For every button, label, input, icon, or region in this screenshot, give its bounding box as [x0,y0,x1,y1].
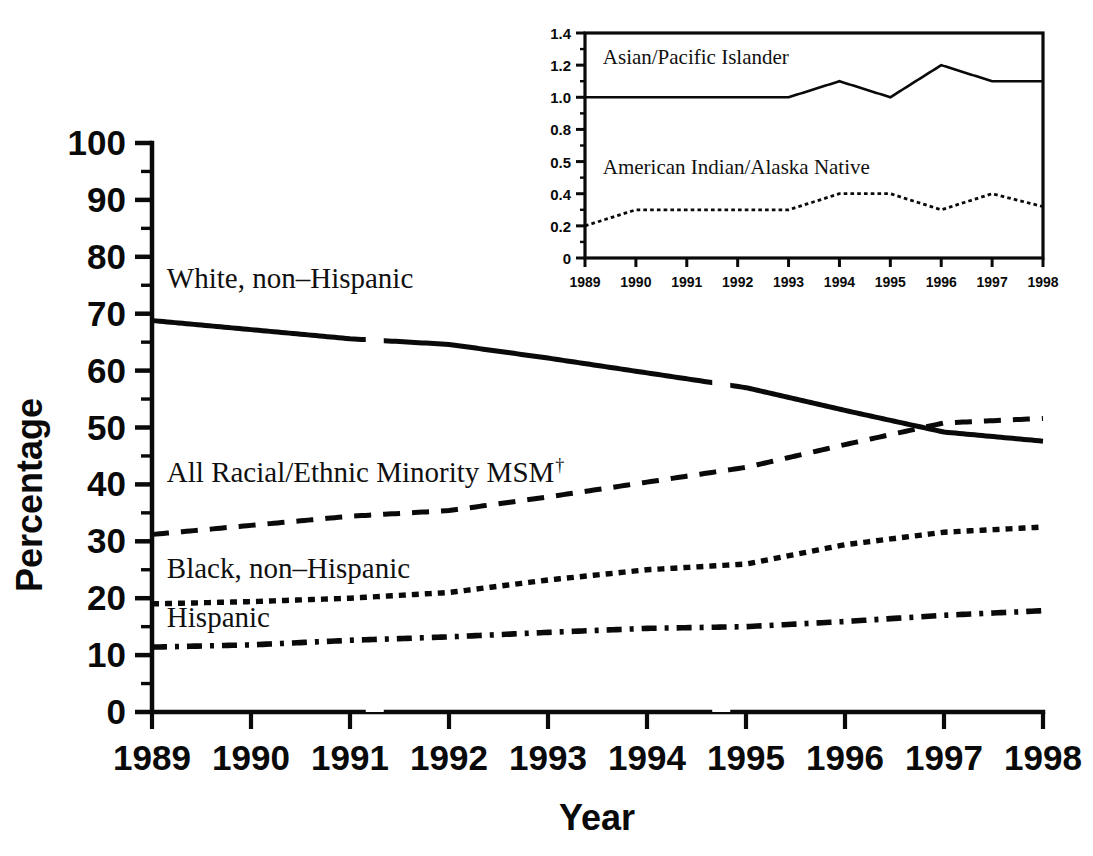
y-tick-label: 50 [87,408,126,447]
inset-y-tick-label: 0 [563,250,571,267]
y-tick-label: 60 [87,351,126,390]
x-tick-label: 1990 [212,738,290,777]
y-tick-label: 40 [87,464,126,503]
y-tick-label: 20 [87,578,126,617]
inset-y-tick-label: 1.0 [550,89,571,106]
y-tick-label: 0 [107,692,126,731]
inset-x-tick-label: 1991 [671,274,702,290]
x-axis-title: Year [559,797,635,838]
x-tick-label: 1998 [1004,738,1082,777]
inset-x-tick-label: 1989 [569,274,600,290]
chart-figure: 1009080706050403020100 19891990199119921… [0,0,1093,856]
series-label-minority-group: All Racial/Ethnic Minority MSM † [167,455,564,488]
y-tick-label: 80 [87,237,126,276]
inset-x-tick-label: 1992 [722,274,753,290]
inset-y-tick-label: 1.2 [550,57,571,74]
y-tick-label: 30 [87,521,126,560]
inset-x-tick-label: 1993 [773,274,804,290]
series-label-black: Black, non–Hispanic [167,552,410,584]
inset-x-tick-label: 1997 [977,274,1008,290]
x-tick-label: 1996 [806,738,884,777]
inset-chart: 1.41.21.00.80.50.40.20 19891990199119921… [550,25,1059,290]
inset-x-tick-label: 1994 [824,274,855,290]
x-tick-label: 1993 [509,738,587,777]
x-tick-label: 1994 [608,738,686,777]
inset-y-tick-label: 0.2 [550,218,571,235]
inset-x-tick-label: 1995 [875,274,906,290]
inset-x-tick-label: 1996 [926,274,957,290]
x-tick-label: 1989 [113,738,191,777]
y-axis-title: Percentage [9,398,50,592]
inset-x-tick-label: 1998 [1027,274,1058,290]
x-tick-label: 1997 [905,738,983,777]
inset-y-tick-label: 0.4 [550,186,572,203]
y-tick-label: 90 [87,180,126,219]
series-label-american-indian: American Indian/Alaska Native [603,155,870,179]
inset-y-tick-label: 1.4 [550,25,572,42]
x-tick-label: 1992 [410,738,488,777]
inset-y-tick-label: 0.5 [550,154,571,171]
x-tick-label: 1991 [311,738,389,777]
y-tick-label: 10 [87,635,126,674]
x-tick-label: 1995 [707,738,785,777]
series-label-minority: All Racial/Ethnic Minority MSM [167,456,554,488]
y-tick-label: 70 [87,294,126,333]
figure-canvas: 1009080706050403020100 19891990199119921… [0,0,1093,856]
inset-x-tick-label: 1990 [620,274,651,290]
y-tick-label: 100 [68,123,126,162]
inset-y-tick-label: 0.8 [550,121,571,138]
series-label-asian-pacific-islander: Asian/Pacific Islander [603,45,789,69]
series-label-hispanic: Hispanic [167,601,270,633]
minority-footnote-marker: † [555,455,564,475]
series-label-white: White, non–Hispanic [167,262,413,294]
